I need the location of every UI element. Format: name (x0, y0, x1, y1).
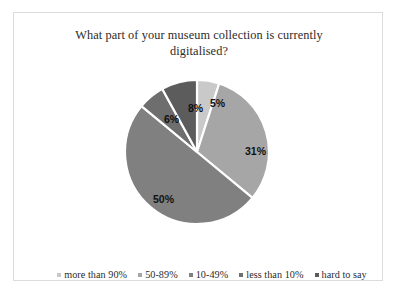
legend-swatch-icon (189, 273, 193, 277)
legend-item-label: more than 90% (64, 269, 127, 280)
legend-swatch-icon (239, 273, 243, 277)
chart-title: What part of your museum collection is c… (54, 27, 344, 59)
legend-swatch-icon (315, 273, 319, 277)
chart-title-line-1: What part of your museum collection is c… (75, 28, 323, 42)
legend-item-label: 50-89% (145, 269, 178, 280)
slice-value-label-more-than-90: 5% (210, 97, 225, 109)
legend-item-label: less than 10% (246, 269, 303, 280)
legend-item-less-than-10[interactable]: less than 10% (239, 269, 303, 280)
slice-value-label-hard-to-say: 8% (188, 102, 203, 114)
legend-item-more-than-90[interactable]: more than 90% (57, 269, 127, 280)
legend-item-hard-to-say[interactable]: hard to say (315, 269, 367, 280)
slice-value-label-10-49: 50% (153, 193, 174, 205)
chart-frame: What part of your museum collection is c… (13, 12, 383, 281)
legend-item-label: hard to say (322, 269, 367, 280)
legend-item-10-49[interactable]: 10-49% (189, 269, 229, 280)
legend-swatch-icon (138, 273, 142, 277)
legend-swatch-icon (57, 273, 61, 277)
legend-item-50-89[interactable]: 50-89% (138, 269, 178, 280)
chart-legend: more than 90% 50-89% 10-49% less than 10… (27, 269, 396, 280)
chart-title-line-2: digitalised? (170, 44, 228, 58)
slice-value-label-less-than-10: 6% (164, 113, 179, 125)
slice-value-label-50-89: 31% (245, 145, 266, 157)
legend-item-label: 10-49% (196, 269, 229, 280)
